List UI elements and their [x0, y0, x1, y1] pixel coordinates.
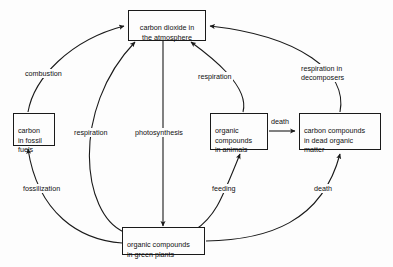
edge-death-plants-path: [206, 154, 340, 241]
edge-label-feeding: feeding: [211, 184, 237, 193]
edge-label-respiration-decomposers: respiration in decomposers: [300, 64, 345, 82]
node-carbon-compounds-dead-organic-matter[interactable]: carbon compounds in dead organic matter: [299, 113, 381, 150]
carbon-cycle-diagram: carbon dioxide in the atmosphere carbon …: [0, 0, 393, 267]
node-carbon-dioxide-atmosphere[interactable]: carbon dioxide in the atmosphere: [128, 10, 206, 41]
edge-label-fossilization: fossilization: [22, 184, 61, 193]
edge-label-respiration-animals: respiration: [197, 72, 233, 81]
node-carbon-in-fossil-fuels[interactable]: carbon in fossil fuels: [13, 113, 55, 146]
edge-label-death-plants: death: [313, 184, 333, 193]
edge-fossilization-path: [28, 149, 122, 243]
edge-label-respiration-plants: respiration: [73, 128, 109, 137]
node-label: organic compounds in animals: [215, 126, 252, 154]
edge-label-death-animals: death: [270, 117, 290, 126]
node-organic-compounds-in-green-plants[interactable]: organic compounds in green plants: [122, 227, 205, 255]
node-label: carbon dioxide in the atmosphere: [140, 23, 194, 41]
node-organic-compounds-in-animals[interactable]: organic compounds in animals: [210, 113, 268, 150]
edge-label-photosynthesis: photosynthesis: [134, 128, 184, 137]
edge-label-combustion: combustion: [24, 69, 63, 78]
